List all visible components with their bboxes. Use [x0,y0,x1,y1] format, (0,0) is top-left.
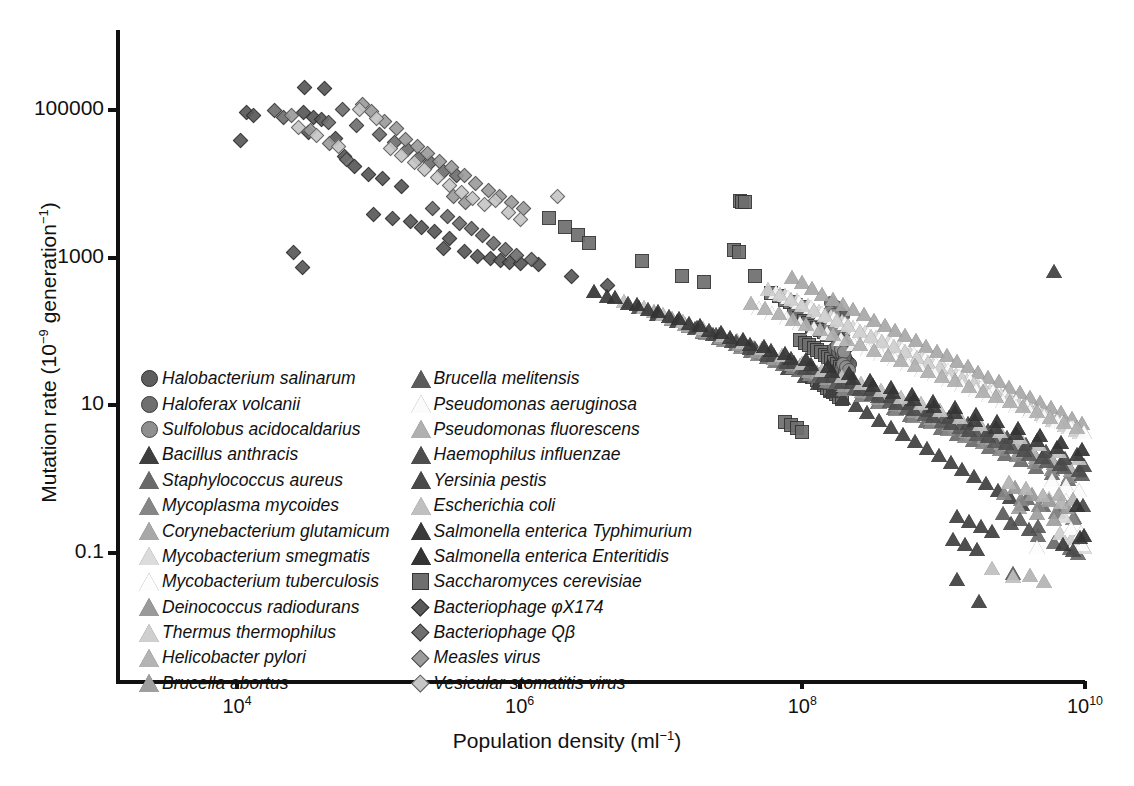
legend-item[interactable]: Brucella abortus [136,671,390,696]
marker-triangle [1072,530,1088,544]
marker-triangle [1002,394,1018,408]
legend-item[interactable]: Staphylococcus aureus [136,468,390,493]
marker-triangle [1029,540,1045,554]
marker-triangle [794,275,810,289]
marker-triangle [411,471,431,489]
marker-triangle [810,376,826,390]
marker-diamond [427,224,443,240]
marker-triangle [786,355,802,369]
marker-triangle [794,360,810,374]
marker-triangle [877,318,893,332]
marker-triangle [586,284,602,298]
marker-triangle [798,317,814,331]
legend-item[interactable]: Mycoplasma mycoides [136,493,390,518]
marker-triangle [948,367,964,381]
marker-triangle [1050,504,1066,518]
marker-circle [828,322,842,336]
marker-circle [141,370,158,387]
marker-triangle [797,361,813,375]
marker-triangle [1069,447,1085,461]
legend-item[interactable]: Escherichia coli [408,493,692,518]
legend-item[interactable]: Helicobacter pylori [136,645,390,670]
legend-item[interactable]: Saccharomyces cerevisiae [408,569,692,594]
marker-triangle [802,367,818,381]
marker-circle [827,308,841,322]
legend-item[interactable]: Pseudomonas aeruginosa [408,391,692,416]
marker-square [827,355,841,369]
marker-diamond [420,146,436,162]
legend-item[interactable]: Pseudomonas fluorescens [408,417,692,442]
marker-triangle [914,405,930,419]
marker-triangle [975,384,991,398]
marker-triangle [846,337,862,351]
marker-triangle [1063,521,1079,535]
marker-triangle [904,387,920,401]
marker-circle [830,304,844,318]
marker-triangle [789,293,805,307]
marker-triangle [1029,506,1045,520]
legend-item[interactable]: Salmonella enterica Typhimurium [408,518,692,543]
marker-triangle [771,306,787,320]
marker-triangle [965,433,981,447]
marker-circle [831,345,845,359]
marker-triangle [886,393,902,407]
marker-triangle [940,422,956,436]
marker-triangle [826,311,842,325]
marker-triangle [860,327,876,341]
marker-triangle [966,376,982,390]
marker-triangle [982,383,998,397]
marker-triangle [949,572,965,586]
marker-triangle [701,323,717,337]
marker-triangle [834,314,850,328]
marker-triangle [671,311,687,325]
marker-diamond [331,139,347,155]
marker-square [802,338,816,352]
marker-triangle [854,388,870,402]
y-axis-tick [108,403,117,407]
legend-item[interactable]: Bacteriophage φX174 [408,595,692,620]
marker-triangle [845,302,861,316]
legend-item[interactable]: Measles virus [408,645,692,670]
marker-circle [835,321,849,335]
marker-triangle [849,321,865,335]
marker-circle [838,365,852,379]
marker-triangle [791,295,807,309]
marker-triangle [766,348,782,362]
marker-triangle [640,302,656,316]
marker-triangle [966,425,982,439]
legend-item[interactable]: Brucella melitensis [408,366,692,391]
mutation-rate-vs-population-density-figure: 1000001000100.11041061081010 Population … [0,0,1134,786]
legend-item[interactable]: Mycobacterium smegmatis [136,544,390,569]
marker-triangle [995,506,1011,520]
marker-triangle [1007,480,1023,494]
marker-triangle [1063,463,1079,477]
legend-item[interactable]: Haloferax volcanii [136,391,390,416]
marker-triangle [895,427,911,441]
legend-item[interactable]: Deinococcus radiodurans [136,595,390,620]
legend-item[interactable]: Corynebacterium glutamicum [136,518,390,543]
legend-item[interactable]: Salmonella enterica Enteritidis [408,544,692,569]
legend-item[interactable]: Vesicular stomatitis virus [408,671,692,696]
marker-triangle [1052,457,1068,471]
marker-triangle [655,307,671,321]
marker-triangle [1060,458,1076,472]
marker-triangle [1044,473,1060,487]
marker-triangle [985,384,1001,398]
legend-item[interactable]: Halobacterium salinarum [136,366,390,391]
legend-item[interactable]: Thermus thermophilus [136,620,390,645]
legend-item[interactable]: Bacillus anthracis [136,442,390,467]
legend-item-label: Mycobacterium tuberculosis [162,571,379,592]
marker-triangle [1001,380,1017,394]
legend-item[interactable]: Bacteriophage Qβ [408,620,692,645]
legend-item[interactable]: Mycobacterium tuberculosis [136,569,390,594]
legend-item[interactable]: Sulfolobus acidocaldarius [136,417,390,442]
marker-triangle [1067,535,1083,549]
marker-triangle [960,359,976,373]
legend-marker-triangle-icon [408,545,434,567]
marker-diamond [348,118,364,134]
legend-item[interactable]: Yersinia pestis [408,468,692,493]
legend-marker-triangle-icon [408,368,434,390]
marker-triangle [947,405,963,419]
legend-item[interactable]: Haemophilus influenzae [408,442,692,467]
legend-item-label: Sulfolobus acidocaldarius [162,419,360,440]
